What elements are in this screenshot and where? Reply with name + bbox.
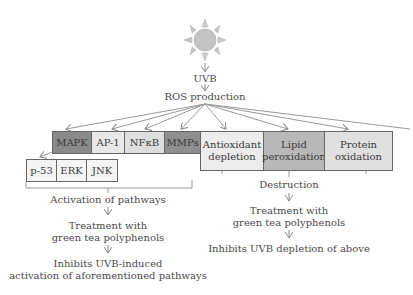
sub-box-label: ERK <box>60 165 82 177</box>
pathway-label: NFκB <box>130 137 159 149</box>
right-inhibits-label: Inhibits UVB depletion of above <box>199 243 379 255</box>
damage-box-protein-oxidation: Protein oxidation <box>324 131 393 171</box>
damage-label-line2: peroxidation <box>262 151 326 163</box>
left-inhibits-line1: Inhibits UVB-induced <box>8 258 208 270</box>
pathway-box-mapk: MAPK <box>52 131 92 154</box>
destruction-label: Destruction <box>239 179 339 191</box>
pathway-label: AP-1 <box>96 137 119 149</box>
damage-label-line2: oxidation <box>335 151 382 163</box>
sub-box-label: JNK <box>92 165 112 177</box>
pathway-box-mmps: MMPs <box>164 131 201 154</box>
left-treatment-line1: Treatment with <box>38 220 178 232</box>
sun-icon <box>184 19 226 61</box>
left-inhibits-line2: activation of aforementioned pathways <box>8 270 208 282</box>
damage-box-lipid-peroxidation: Lipid peroxidation <box>263 131 325 171</box>
activation-of-pathways-label: Activation of pathways <box>38 194 178 206</box>
damage-label-line1: Lipid <box>281 139 307 151</box>
damage-label-line1: Protein <box>340 139 377 151</box>
ros-production-label: ROS production <box>150 91 260 103</box>
sub-box-label: p-53 <box>30 165 53 177</box>
damage-label-line2: depletion <box>208 151 256 163</box>
mapk-sub-box-p53: p-53 <box>26 159 57 182</box>
right-treatment-line2: green tea polyphenols <box>219 217 359 229</box>
pathway-label: MMPs <box>166 137 198 149</box>
uvb-label: UVB <box>185 73 225 85</box>
right-treatment-line1: Treatment with <box>219 205 359 217</box>
damage-label-line1: Antioxidant <box>203 139 262 151</box>
pathway-box-nfkb: NFκB <box>124 131 165 154</box>
pathway-box-ap1: AP-1 <box>91 131 125 154</box>
mapk-sub-box-erk: ERK <box>56 159 87 182</box>
mapk-sub-box-jnk: JNK <box>86 159 118 182</box>
left-treatment-line2: green tea polyphenols <box>38 232 178 244</box>
pathway-label: MAPK <box>56 137 88 149</box>
damage-box-antioxidant-depletion: Antioxidant depletion <box>200 131 264 171</box>
